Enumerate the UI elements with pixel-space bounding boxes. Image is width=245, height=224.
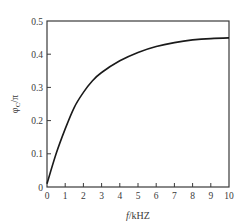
y-tick-label: 0.2 — [31, 116, 43, 126]
x-axis-title: f/kHZ — [126, 210, 150, 221]
y-tick-label: 0 — [38, 183, 43, 193]
x-tick-label: 9 — [208, 191, 213, 201]
x-tick-label: 2 — [81, 191, 86, 201]
x-tick-label: 1 — [63, 191, 68, 201]
x-tick-label: 0 — [45, 191, 50, 201]
y-axis-title: φC/π — [9, 95, 22, 113]
plot-area — [47, 21, 229, 187]
x-tick-label: 7 — [172, 191, 177, 201]
y-tick-label: 0.3 — [31, 83, 43, 93]
y-tick-label: 0.1 — [31, 149, 43, 159]
x-tick-label: 6 — [154, 191, 159, 201]
x-tick-label: 4 — [117, 191, 122, 201]
x-tick-label: 8 — [190, 191, 195, 201]
y-axis-ticks: 00.10.20.30.40.5 — [31, 17, 51, 193]
y-tick-label: 0.5 — [31, 17, 43, 27]
axes-frame — [47, 21, 229, 187]
line-chart: 00.10.20.30.40.5 012345678910 f/kHZ φC/π — [0, 0, 245, 224]
x-tick-label: 5 — [136, 191, 141, 201]
data-series-line — [47, 38, 229, 184]
x-tick-label: 10 — [224, 191, 234, 201]
x-axis-ticks: 012345678910 — [45, 183, 234, 201]
x-tick-label: 3 — [99, 191, 104, 201]
y-tick-label: 0.4 — [31, 50, 43, 60]
